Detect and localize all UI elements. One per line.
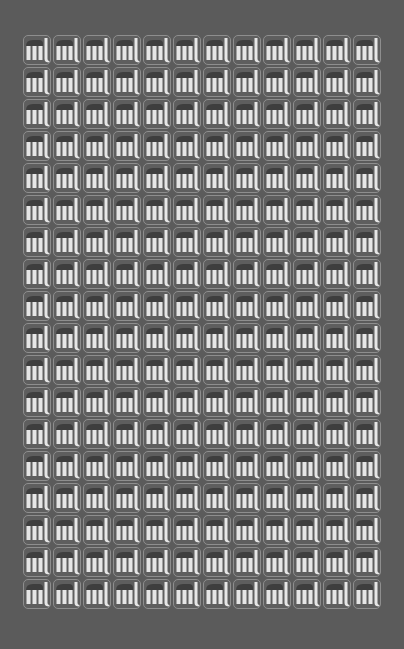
ml-logo-tile[interactable] bbox=[323, 387, 351, 417]
ml-logo-tile[interactable] bbox=[143, 195, 171, 225]
ml-logo-tile[interactable] bbox=[263, 387, 291, 417]
ml-logo-tile[interactable] bbox=[143, 387, 171, 417]
ml-logo-tile[interactable] bbox=[53, 515, 81, 545]
ml-logo-tile[interactable] bbox=[23, 259, 51, 289]
ml-logo-tile[interactable] bbox=[353, 323, 381, 353]
ml-logo-tile[interactable] bbox=[293, 163, 321, 193]
ml-logo-tile[interactable] bbox=[263, 259, 291, 289]
ml-logo-tile[interactable] bbox=[323, 99, 351, 129]
ml-logo-tile[interactable] bbox=[353, 99, 381, 129]
ml-logo-tile[interactable] bbox=[233, 35, 261, 65]
ml-logo-tile[interactable] bbox=[293, 227, 321, 257]
ml-logo-tile[interactable] bbox=[143, 419, 171, 449]
ml-logo-tile[interactable] bbox=[173, 291, 201, 321]
ml-logo-tile[interactable] bbox=[23, 323, 51, 353]
ml-logo-tile[interactable] bbox=[83, 579, 111, 609]
ml-logo-tile[interactable] bbox=[323, 67, 351, 97]
ml-logo-tile[interactable] bbox=[23, 515, 51, 545]
ml-logo-tile[interactable] bbox=[293, 451, 321, 481]
ml-logo-tile[interactable] bbox=[53, 163, 81, 193]
ml-logo-tile[interactable] bbox=[353, 195, 381, 225]
ml-logo-tile[interactable] bbox=[143, 355, 171, 385]
ml-logo-tile[interactable] bbox=[113, 579, 141, 609]
ml-logo-tile[interactable] bbox=[263, 355, 291, 385]
ml-logo-tile[interactable] bbox=[353, 67, 381, 97]
ml-logo-tile[interactable] bbox=[233, 451, 261, 481]
ml-logo-tile[interactable] bbox=[23, 355, 51, 385]
ml-logo-tile[interactable] bbox=[293, 195, 321, 225]
ml-logo-tile[interactable] bbox=[353, 419, 381, 449]
ml-logo-tile[interactable] bbox=[293, 35, 321, 65]
ml-logo-tile[interactable] bbox=[53, 387, 81, 417]
ml-logo-tile[interactable] bbox=[233, 387, 261, 417]
ml-logo-tile[interactable] bbox=[113, 259, 141, 289]
ml-logo-tile[interactable] bbox=[323, 579, 351, 609]
ml-logo-tile[interactable] bbox=[263, 419, 291, 449]
ml-logo-tile[interactable] bbox=[113, 35, 141, 65]
ml-logo-tile[interactable] bbox=[353, 163, 381, 193]
ml-logo-tile[interactable] bbox=[233, 163, 261, 193]
ml-logo-tile[interactable] bbox=[263, 579, 291, 609]
ml-logo-tile[interactable] bbox=[263, 67, 291, 97]
ml-logo-tile[interactable] bbox=[353, 259, 381, 289]
ml-logo-tile[interactable] bbox=[113, 419, 141, 449]
ml-logo-tile[interactable] bbox=[323, 451, 351, 481]
ml-logo-tile[interactable] bbox=[113, 323, 141, 353]
ml-logo-tile[interactable] bbox=[83, 323, 111, 353]
ml-logo-tile[interactable] bbox=[233, 291, 261, 321]
ml-logo-tile[interactable] bbox=[83, 387, 111, 417]
ml-logo-tile[interactable] bbox=[233, 259, 261, 289]
ml-logo-tile[interactable] bbox=[323, 291, 351, 321]
ml-logo-tile[interactable] bbox=[233, 227, 261, 257]
ml-logo-tile[interactable] bbox=[353, 131, 381, 161]
ml-logo-tile[interactable] bbox=[113, 67, 141, 97]
ml-logo-tile[interactable] bbox=[143, 131, 171, 161]
ml-logo-tile[interactable] bbox=[143, 227, 171, 257]
ml-logo-tile[interactable] bbox=[53, 547, 81, 577]
ml-logo-tile[interactable] bbox=[83, 547, 111, 577]
ml-logo-tile[interactable] bbox=[143, 451, 171, 481]
ml-logo-tile[interactable] bbox=[83, 355, 111, 385]
ml-logo-tile[interactable] bbox=[203, 579, 231, 609]
ml-logo-tile[interactable] bbox=[323, 195, 351, 225]
ml-logo-tile[interactable] bbox=[263, 35, 291, 65]
ml-logo-tile[interactable] bbox=[23, 579, 51, 609]
ml-logo-tile[interactable] bbox=[143, 323, 171, 353]
ml-logo-tile[interactable] bbox=[293, 67, 321, 97]
ml-logo-tile[interactable] bbox=[263, 195, 291, 225]
ml-logo-tile[interactable] bbox=[113, 451, 141, 481]
ml-logo-tile[interactable] bbox=[173, 227, 201, 257]
ml-logo-tile[interactable] bbox=[83, 227, 111, 257]
ml-logo-tile[interactable] bbox=[53, 291, 81, 321]
ml-logo-tile[interactable] bbox=[113, 195, 141, 225]
ml-logo-tile[interactable] bbox=[323, 131, 351, 161]
ml-logo-tile[interactable] bbox=[203, 323, 231, 353]
ml-logo-tile[interactable] bbox=[53, 195, 81, 225]
ml-logo-tile[interactable] bbox=[203, 515, 231, 545]
ml-logo-tile[interactable] bbox=[293, 387, 321, 417]
ml-logo-tile[interactable] bbox=[353, 291, 381, 321]
ml-logo-tile[interactable] bbox=[83, 291, 111, 321]
ml-logo-tile[interactable] bbox=[203, 131, 231, 161]
ml-logo-tile[interactable] bbox=[203, 195, 231, 225]
ml-logo-tile[interactable] bbox=[233, 579, 261, 609]
ml-logo-tile[interactable] bbox=[173, 323, 201, 353]
ml-logo-tile[interactable] bbox=[293, 579, 321, 609]
ml-logo-tile[interactable] bbox=[23, 227, 51, 257]
ml-logo-tile[interactable] bbox=[173, 547, 201, 577]
ml-logo-tile[interactable] bbox=[173, 195, 201, 225]
ml-logo-tile[interactable] bbox=[293, 355, 321, 385]
ml-logo-tile[interactable] bbox=[113, 515, 141, 545]
ml-logo-tile[interactable] bbox=[53, 579, 81, 609]
ml-logo-tile[interactable] bbox=[173, 419, 201, 449]
ml-logo-tile[interactable] bbox=[173, 131, 201, 161]
ml-logo-tile[interactable] bbox=[173, 67, 201, 97]
ml-logo-tile[interactable] bbox=[83, 67, 111, 97]
ml-logo-tile[interactable] bbox=[143, 483, 171, 513]
ml-logo-tile[interactable] bbox=[233, 195, 261, 225]
ml-logo-tile[interactable] bbox=[143, 99, 171, 129]
ml-logo-tile[interactable] bbox=[143, 291, 171, 321]
ml-logo-tile[interactable] bbox=[53, 67, 81, 97]
ml-logo-tile[interactable] bbox=[23, 387, 51, 417]
ml-logo-tile[interactable] bbox=[323, 515, 351, 545]
